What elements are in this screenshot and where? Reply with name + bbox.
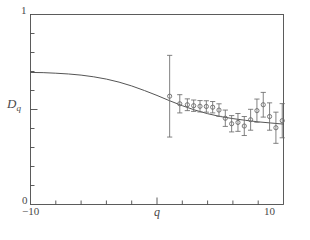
data-points-group <box>167 55 285 143</box>
data-point <box>210 102 215 113</box>
data-point <box>185 99 190 111</box>
data-point <box>261 92 266 117</box>
data-point <box>254 99 259 122</box>
data-point <box>280 104 285 138</box>
data-point <box>248 109 253 130</box>
data-point <box>197 101 202 112</box>
y-axis-ticks <box>31 34 38 186</box>
data-point <box>191 100 196 111</box>
y-axis-title: Dq <box>7 96 21 113</box>
y-axis-max-label: 1 <box>21 4 27 16</box>
scatter-plot-figure <box>0 0 310 240</box>
data-point <box>177 95 182 113</box>
data-point <box>216 104 221 117</box>
x-axis-min-label: −10 <box>22 205 39 217</box>
plot-frame <box>31 15 284 205</box>
y-axis-title-subscript: q <box>16 103 21 113</box>
x-axis-title: q <box>154 205 160 220</box>
x-axis-max-label: 10 <box>264 205 275 217</box>
y-axis-title-main: D <box>7 96 16 111</box>
data-point <box>267 103 272 130</box>
data-point <box>273 112 278 143</box>
data-point <box>223 110 228 126</box>
data-point <box>204 101 209 112</box>
data-point <box>235 113 240 131</box>
data-point <box>242 117 247 136</box>
data-point <box>167 55 172 137</box>
